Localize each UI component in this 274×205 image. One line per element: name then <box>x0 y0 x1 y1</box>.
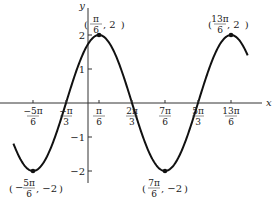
x-tick-label: −5π6 <box>23 106 42 127</box>
svg-text:, −2: , −2 <box>161 183 182 194</box>
svg-text:): ) <box>184 183 188 194</box>
svg-text:2π: 2π <box>126 106 138 116</box>
y-tick-label: −1 <box>70 132 85 143</box>
svg-text:6: 6 <box>26 189 32 199</box>
x-axis-label: x <box>266 97 272 108</box>
svg-text:−5π: −5π <box>23 106 42 116</box>
point-label: (7π6, −2) <box>142 178 188 199</box>
x-tick-label: 13π6 <box>222 106 239 127</box>
point-label: (13π6, 2) <box>208 14 249 35</box>
svg-text:6: 6 <box>30 117 36 127</box>
svg-text:): ) <box>121 19 125 30</box>
svg-text:−: − <box>15 182 23 193</box>
svg-text:13π: 13π <box>222 106 239 116</box>
svg-text:3: 3 <box>195 117 201 127</box>
svg-text:, −2: , −2 <box>36 183 57 194</box>
svg-text:, 2: , 2 <box>227 19 240 30</box>
svg-text:π: π <box>96 106 102 116</box>
y-tick-label: −2 <box>70 166 85 177</box>
svg-text:(: ( <box>9 183 13 194</box>
svg-text:−π: −π <box>59 106 73 116</box>
svg-text:(: ( <box>142 183 146 194</box>
svg-text:(: ( <box>84 19 88 30</box>
svg-text:6: 6 <box>162 117 168 127</box>
y-tick-label: 2 <box>79 30 85 41</box>
svg-text:7π: 7π <box>159 106 171 116</box>
svg-text:3: 3 <box>63 117 69 127</box>
svg-text:3: 3 <box>129 117 135 127</box>
svg-text:, 2: , 2 <box>103 19 116 30</box>
svg-text:6: 6 <box>228 117 234 127</box>
svg-text:6: 6 <box>217 25 223 35</box>
svg-text:6: 6 <box>96 117 102 127</box>
y-axis-label: y <box>78 0 85 11</box>
svg-text:π: π <box>93 14 99 24</box>
sine-chart: xy −5π6−π3π62π37π65π313π621−1−2 (π6, 2)(… <box>0 0 274 205</box>
svg-text:): ) <box>245 19 249 30</box>
point-label: (−5π6, −2) <box>9 178 63 199</box>
svg-text:5π: 5π <box>192 106 204 116</box>
y-tick-label: 1 <box>79 64 85 75</box>
svg-text:7π: 7π <box>148 178 160 188</box>
svg-text:6: 6 <box>93 25 99 35</box>
point-label: (π6, 2) <box>84 14 125 35</box>
svg-text:5π: 5π <box>23 178 35 188</box>
x-tick-label: π6 <box>93 106 105 127</box>
svg-text:): ) <box>59 183 63 194</box>
svg-text:6: 6 <box>151 189 157 199</box>
x-tick-label: 7π6 <box>159 106 171 127</box>
